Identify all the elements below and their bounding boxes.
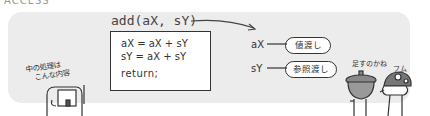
acorn-character-icon — [346, 71, 376, 116]
device-sketch-icon — [47, 85, 84, 116]
diagram-drawings — [0, 0, 430, 116]
signature-arrow-icon — [191, 20, 255, 30]
mushroom-character-icon — [380, 72, 411, 116]
